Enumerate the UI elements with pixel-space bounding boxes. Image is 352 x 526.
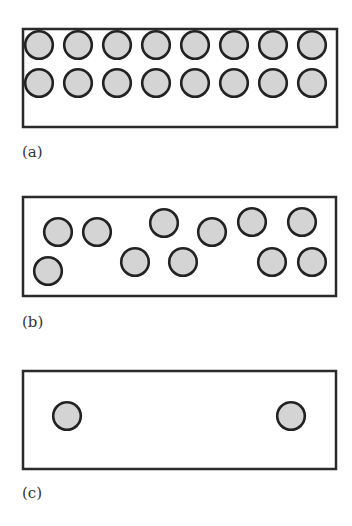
- particle-circle: [142, 31, 170, 59]
- particle-circle: [259, 31, 287, 59]
- particle-circle: [83, 218, 111, 246]
- panel-label: (b): [22, 313, 43, 331]
- particle-circle: [181, 31, 209, 59]
- panel-b: (b): [22, 197, 336, 331]
- particle-circle: [169, 248, 197, 276]
- panel-c: (c): [22, 371, 336, 502]
- particle-circle: [277, 402, 305, 430]
- particle-circle: [64, 31, 92, 59]
- particle-circle: [142, 69, 170, 97]
- particle-diagram: (a) (b) (c): [0, 0, 352, 526]
- particle-circle: [220, 31, 248, 59]
- particle-circle: [103, 31, 131, 59]
- panel-label: (c): [22, 484, 42, 502]
- container-box: [23, 197, 336, 296]
- particle-circle: [44, 218, 72, 246]
- particle-circle: [121, 248, 149, 276]
- particle-circle: [298, 69, 326, 97]
- particle-circle: [150, 209, 178, 237]
- particle-circle: [259, 69, 287, 97]
- particle-circle: [198, 218, 226, 246]
- particle-circle: [181, 69, 209, 97]
- particle-circle: [34, 257, 62, 285]
- panel-a: (a): [22, 29, 337, 161]
- particle-circle: [64, 69, 92, 97]
- particle-circle: [238, 208, 266, 236]
- particle-circle: [25, 31, 53, 59]
- particle-circle: [25, 69, 53, 97]
- particle-circle: [298, 31, 326, 59]
- particle-circle: [220, 69, 248, 97]
- particle-circle: [53, 402, 81, 430]
- particle-circle: [288, 208, 316, 236]
- particle-circle: [258, 248, 286, 276]
- particle-circle: [298, 248, 326, 276]
- panel-label: (a): [22, 143, 43, 161]
- particle-circle: [103, 69, 131, 97]
